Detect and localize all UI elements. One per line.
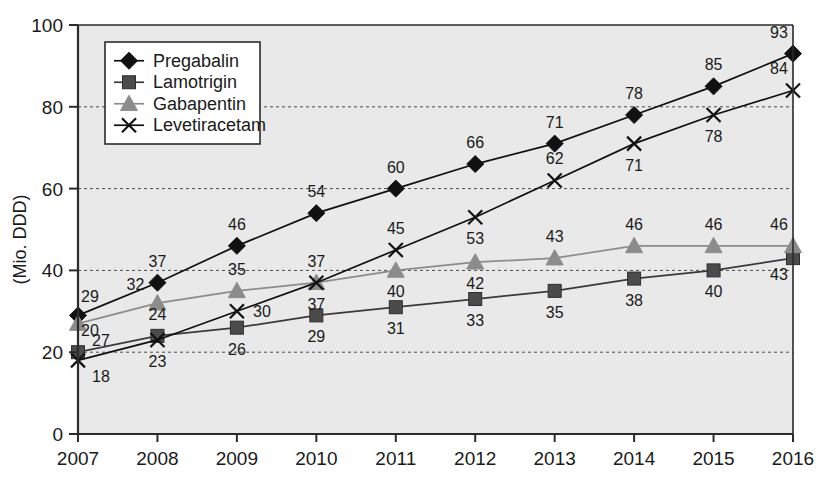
point-label-levetiracetam-2007: 18 [92, 368, 110, 385]
x-tick-label-2012: 2012 [454, 448, 496, 469]
point-label-pregabalin-2011: 60 [387, 159, 405, 176]
legend-label-pregabalin: Pregabalin [153, 51, 239, 71]
x-tick-label-2011: 2011 [375, 448, 416, 469]
x-tick-label-2014: 2014 [613, 448, 656, 469]
x-tick-label-2008: 2008 [136, 448, 178, 469]
y-tick-label-40: 40 [42, 260, 63, 281]
point-label-pregabalin-2008: 37 [149, 253, 167, 270]
line-chart: 0204060801002007200820092010201120122013… [0, 0, 831, 485]
point-label-gabapentin-2015: 46 [705, 216, 723, 233]
x-tick-label-2016: 2016 [772, 448, 814, 469]
point-label-lamotrigin-2014: 38 [625, 292, 643, 309]
point-label-lamotrigin-2015: 40 [705, 283, 723, 300]
point-label-gabapentin-2014: 46 [625, 216, 643, 233]
point-label-gabapentin-2009: 35 [228, 261, 246, 278]
marker-square [230, 321, 243, 334]
marker-square [123, 76, 136, 89]
point-label-lamotrigin-2008: 24 [149, 306, 167, 323]
point-label-levetiracetam-2009: 30 [253, 303, 271, 320]
point-label-gabapentin-2013: 43 [546, 228, 564, 245]
legend-label-gabapentin: Gabapentin [153, 94, 246, 114]
marker-square [628, 272, 641, 285]
point-label-lamotrigin-2009: 26 [228, 341, 246, 358]
point-label-levetiracetam-2013: 62 [546, 150, 564, 167]
point-label-pregabalin-2016: 93 [770, 24, 788, 41]
point-label-levetiracetam-2008: 23 [149, 353, 167, 370]
x-tick-label-2010: 2010 [295, 448, 337, 469]
chart-container: 0204060801002007200820092010201120122013… [0, 0, 831, 485]
point-label-lamotrigin-2012: 33 [466, 312, 484, 329]
point-label-levetiracetam-2015: 78 [705, 128, 723, 145]
point-label-lamotrigin-2016: 43 [770, 266, 788, 283]
point-label-pregabalin-2013: 71 [546, 114, 564, 131]
point-label-pregabalin-2007: 29 [81, 288, 99, 305]
point-label-levetiracetam-2010: 37 [307, 296, 325, 313]
marker-square [469, 293, 482, 306]
x-tick-label-2009: 2009 [216, 448, 258, 469]
x-tick-label-2013: 2013 [534, 448, 576, 469]
point-label-gabapentin-2016: 46 [770, 216, 788, 233]
point-label-levetiracetam-2016: 84 [770, 60, 788, 77]
y-tick-label-80: 80 [42, 97, 63, 118]
point-label-gabapentin-2010: 37 [307, 253, 325, 270]
legend-label-levetiracetam: Levetiracetam [153, 115, 266, 135]
x-tick-label-2015: 2015 [692, 448, 734, 469]
point-label-gabapentin-2008: 32 [127, 276, 145, 293]
point-label-lamotrigin-2010: 29 [307, 328, 325, 345]
y-tick-label-20: 20 [42, 342, 63, 363]
marker-square [707, 264, 720, 277]
y-axis-title: (Mio. DDD) [10, 195, 30, 285]
point-label-pregabalin-2009: 46 [228, 216, 246, 233]
point-label-pregabalin-2012: 66 [466, 134, 484, 151]
marker-square [548, 284, 561, 297]
point-label-lamotrigin-2013: 35 [546, 304, 564, 321]
x-tick-label-2007: 2007 [57, 448, 99, 469]
marker-square [389, 301, 402, 314]
point-label-gabapentin-2007: 27 [92, 332, 110, 349]
point-label-gabapentin-2011: 40 [387, 283, 405, 300]
chart-legend: PregabalinLamotriginGabapentinLevetirace… [105, 42, 266, 144]
y-tick-label-0: 0 [52, 424, 63, 445]
y-tick-label-60: 60 [42, 179, 63, 200]
point-label-pregabalin-2014: 78 [625, 85, 643, 102]
point-label-gabapentin-2012: 42 [466, 275, 484, 292]
point-label-lamotrigin-2011: 31 [387, 320, 405, 337]
point-label-levetiracetam-2012: 53 [466, 230, 484, 247]
point-label-levetiracetam-2011: 45 [387, 220, 405, 237]
y-tick-label-100: 100 [31, 15, 63, 36]
point-label-pregabalin-2010: 54 [307, 183, 325, 200]
point-label-levetiracetam-2014: 71 [625, 157, 643, 174]
point-label-pregabalin-2015: 85 [705, 56, 723, 73]
legend-label-lamotrigin: Lamotrigin [153, 72, 237, 92]
